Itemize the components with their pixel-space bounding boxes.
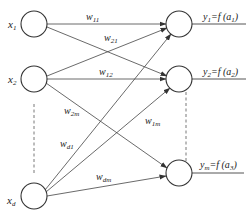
input-label-xd: xd xyxy=(6,194,16,208)
weight-label-w12: w12 xyxy=(99,66,113,79)
output-node-ym xyxy=(166,160,192,186)
output-label-y2: y2=f (a2) xyxy=(202,66,239,79)
input-node-xd xyxy=(21,183,47,209)
input-node-x2 xyxy=(21,66,47,92)
output-label-y1: y1=f (a1) xyxy=(202,11,239,24)
output-label-ym: ym=f (a3) xyxy=(199,159,237,172)
output-node-y1 xyxy=(166,11,192,37)
neural-network-diagram: x1 x2 xd y1=f (a1) y2=f (a2) ym=f (a3) w… xyxy=(0,0,250,217)
weight-label-w2m: w2m xyxy=(64,105,79,118)
weight-label-w11: w11 xyxy=(86,11,99,24)
weight-label-w21: w21 xyxy=(104,32,118,45)
input-label-x1: x1 xyxy=(7,18,16,32)
weight-label-w1m: w1m xyxy=(145,115,160,128)
weight-label-wd1: wd1 xyxy=(60,138,74,151)
input-label-x2: x2 xyxy=(7,73,17,87)
output-node-y2 xyxy=(166,66,192,92)
weight-label-wdm: wdm xyxy=(96,171,111,184)
input-node-x1 xyxy=(21,11,47,37)
